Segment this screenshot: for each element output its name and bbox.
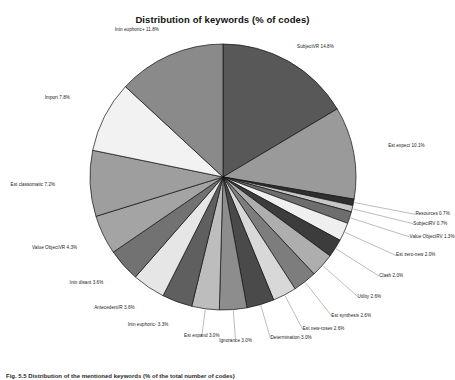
leader-line xyxy=(351,218,410,237)
figure-caption: Fig. 5.5 Distribution of the mentioned k… xyxy=(6,373,426,379)
slice-label: Resources 0.7% xyxy=(415,212,449,217)
slice-label: Ignorance 3.0% xyxy=(219,338,252,343)
slice-label: Intn euphoric+ 11.8% xyxy=(115,28,159,33)
pie-chart xyxy=(88,42,358,312)
slice-label: Import 7.8% xyxy=(45,96,70,101)
slice-label: Intn disant 3.6% xyxy=(70,281,104,286)
slice-label: Est zero-new 2.0% xyxy=(396,253,435,258)
slice-label: SubjectVR 14.8% xyxy=(297,44,334,49)
slice-label: Clash 2.0% xyxy=(379,274,403,279)
slice-label: Value ObjectRV 1.3% xyxy=(410,235,455,240)
leader-line xyxy=(355,203,416,215)
slice-label: Intn euphoric- 3.3% xyxy=(128,323,169,328)
chart-title: Distribution of keywords (% of codes) xyxy=(0,14,445,25)
slice-label: Utility 2.6% xyxy=(358,294,382,299)
slice-label: Est classomatic 7.2% xyxy=(11,183,56,188)
slice-label: Est synthesis 2.6% xyxy=(331,313,371,318)
slice-label: Determination 3.0% xyxy=(270,336,311,341)
leader-line xyxy=(353,209,413,224)
slice-label: Antecedent/R 3.6% xyxy=(94,306,134,311)
slice-label: Est expand 3.0% xyxy=(184,333,219,338)
slice-label: SubjectRV 0.7% xyxy=(413,221,447,226)
pie-slices xyxy=(88,42,358,312)
slice-label: Est expect 10.1% xyxy=(388,144,425,149)
slice-label: Value ObjectVR 4.3% xyxy=(32,245,77,250)
leader-line xyxy=(233,311,235,341)
slice-label: Est new-roses 2.6% xyxy=(303,327,345,332)
